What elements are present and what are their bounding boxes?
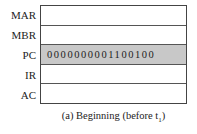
register-pc-value: 0000000001100100 [41, 45, 186, 65]
register-label-mbr: MBR [0, 25, 36, 45]
register-ac-value [41, 84, 186, 104]
caption-text: (a) Beginning (before t [62, 110, 159, 121]
register-labels: MAR MBR PC IR AC [0, 5, 36, 105]
caption-close: ) [162, 110, 166, 121]
register-mbr-value [41, 26, 186, 46]
register-label-ir: IR [0, 65, 36, 85]
register-box: 0000000001100100 [40, 5, 187, 104]
register-label-pc: PC [0, 45, 36, 65]
register-label-mar: MAR [0, 5, 36, 25]
figure-caption: (a) Beginning (before t1) [0, 110, 197, 124]
register-ir-value [41, 65, 186, 85]
register-label-ac: AC [0, 85, 36, 105]
register-mar-value [41, 6, 186, 26]
